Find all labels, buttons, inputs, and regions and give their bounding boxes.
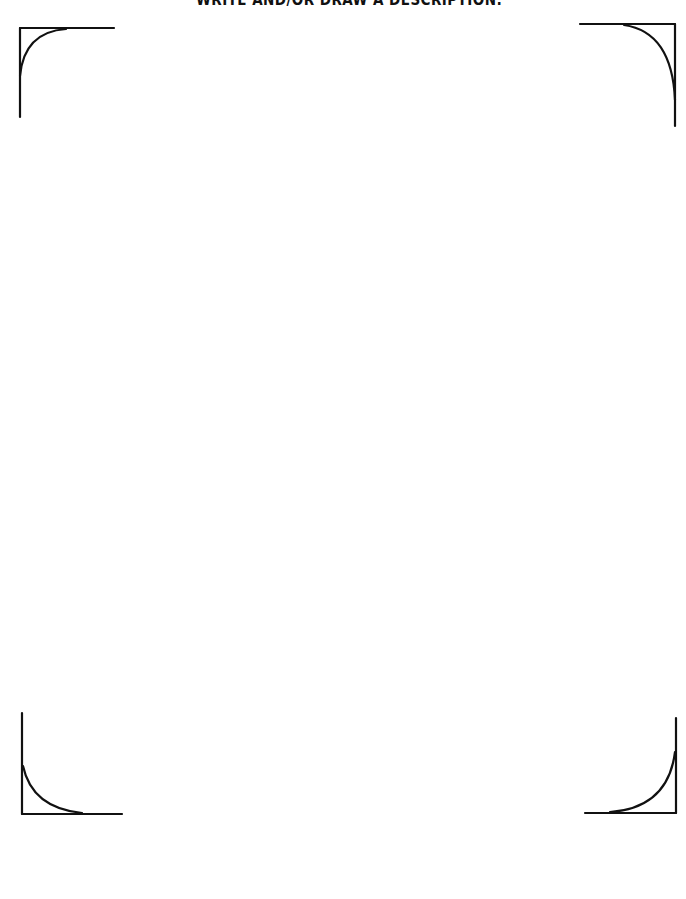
frame-corner-top-right-icon	[580, 24, 675, 126]
frame-corner-top-left-icon	[20, 28, 114, 117]
frame-corners	[0, 0, 686, 899]
frame-corner-bottom-right-icon	[585, 718, 676, 813]
frame-corner-bottom-left-icon	[22, 713, 122, 814]
